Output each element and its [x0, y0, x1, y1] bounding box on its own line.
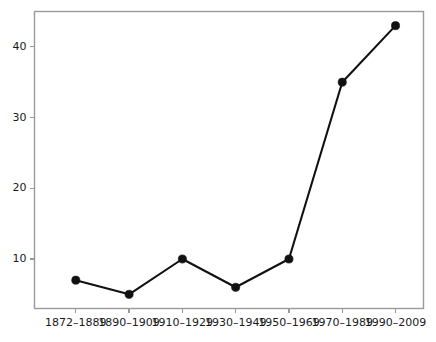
y-tick-label: 20 [13, 181, 27, 194]
line-chart: 1872–1889: 71890–1909: 51910–1929: 10193… [0, 0, 436, 342]
data-point: 1930–1949: 6 [232, 283, 240, 291]
chart-container: 1872–1889: 71890–1909: 51910–1929: 10193… [0, 0, 436, 342]
data-point: 1950–1969: 10 [285, 255, 293, 263]
plot-frame [35, 12, 424, 309]
data-point: 1970–1989: 35 [338, 78, 346, 86]
y-tick-label: 40 [13, 40, 27, 53]
x-tick-label: 1950–1969 [258, 316, 320, 329]
data-point: 1910–1929: 10 [178, 255, 186, 263]
y-tick-label: 10 [13, 252, 27, 265]
y-tick-label: 30 [13, 111, 27, 124]
x-tick-label: 1990–2009 [365, 316, 427, 329]
x-tick-label: 1872–1889 [45, 316, 107, 329]
x-axis-tick-labels: 1872–18891890–19091910–19291930–19491950… [45, 316, 426, 329]
data-point: 1990–2009: 43 [391, 22, 399, 30]
data-point: 1890–1909: 5 [125, 290, 133, 298]
x-tick-label: 1910–1929 [152, 316, 214, 329]
x-tick-label: 1890–1909 [98, 316, 160, 329]
x-tick-label: 1930–1949 [205, 316, 267, 329]
x-tick-label: 1970–1989 [311, 316, 373, 329]
data-point: 1872–1889: 7 [72, 276, 80, 284]
